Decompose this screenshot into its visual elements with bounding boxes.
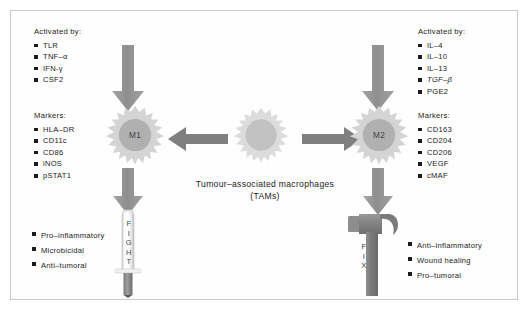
list-item: PGE2 (418, 86, 465, 98)
left-activated-by-title: Activated by: (34, 26, 81, 38)
list-item: TNF–α (34, 51, 81, 63)
list-item: Anti–tumoral (32, 258, 105, 273)
figure-canvas: Activated by: TLR TNF–α IFN-γ CSF2 Activ… (0, 0, 530, 312)
list-item: CD11c (34, 135, 74, 147)
macrophage-icon (104, 104, 166, 166)
right-markers-block: Markers: CD163 CD204 CD206 VEGF cMAF (418, 110, 452, 182)
right-markers-list: CD163 CD204 CD206 VEGF cMAF (418, 124, 452, 182)
list-item: CD206 (418, 147, 452, 159)
left-markers-title: Markers: (34, 110, 74, 122)
list-item: Pro–inflammatory (32, 228, 105, 243)
tam-caption-line2: (TAMs) (175, 190, 355, 202)
list-item: TGF–β (418, 74, 465, 86)
syringe-icon (112, 208, 146, 298)
list-item: CD163 (418, 124, 452, 136)
m1-macrophage-cell: M1 (104, 104, 166, 166)
list-item: Pro–tumoral (408, 268, 482, 283)
tam-caption: Tumour–associated macrophages (TAMs) (175, 178, 355, 202)
right-activated-by-title: Activated by: (418, 26, 465, 38)
list-item: pSTAT1 (34, 170, 74, 182)
arrow-down-right-activation (358, 45, 398, 113)
list-item: CD86 (34, 147, 74, 159)
left-outcomes-block: Pro–inflammatory Microbicidal Anti–tumor… (32, 228, 105, 273)
right-markers-title: Markers: (418, 110, 452, 122)
list-item: iNOS (34, 158, 74, 170)
list-item: cMAF (418, 170, 452, 182)
macrophage-icon (348, 104, 410, 166)
right-outcomes-block: Anti–inflammatory Wound healing Pro–tumo… (408, 238, 482, 283)
m2-macrophage-cell: M2 (348, 104, 410, 166)
hammer-icon (346, 210, 404, 298)
list-item: Microbicidal (32, 243, 105, 258)
arrow-left-to-m1 (166, 126, 228, 152)
left-markers-block: Markers: HLA–DR CD11c CD86 iNOS pSTAT1 (34, 110, 74, 182)
left-activated-by-block: Activated by: TLR TNF–α IFN-γ CSF2 (34, 26, 81, 86)
macrophage-icon (232, 106, 290, 164)
list-item: HLA–DR (34, 124, 74, 136)
list-item: Wound healing (408, 253, 482, 268)
list-item: VEGF (418, 158, 452, 170)
list-item: CD204 (418, 135, 452, 147)
tam-caption-line1: Tumour–associated macrophages (175, 178, 355, 190)
right-activated-by-block: Activated by: IL–4 IL–10 IL–13 TGF–β PGE… (418, 26, 465, 98)
tam-macrophage-cell (232, 106, 290, 164)
list-item: CSF2 (34, 74, 81, 86)
list-item: IL–4 (418, 40, 465, 52)
left-activated-by-list: TLR TNF–α IFN-γ CSF2 (34, 40, 81, 86)
left-outcomes-list: Pro–inflammatory Microbicidal Anti–tumor… (32, 228, 105, 273)
arrow-down-right-outcome (360, 168, 396, 216)
list-item: IL–13 (418, 63, 465, 75)
list-item: IL–10 (418, 51, 465, 63)
arrow-down-left-activation (108, 45, 148, 113)
right-activated-by-list: IL–4 IL–10 IL–13 TGF–β PGE2 (418, 40, 465, 98)
list-item: Anti–inflammatory (408, 238, 482, 253)
list-item: TLR (34, 40, 81, 52)
left-markers-list: HLA–DR CD11c CD86 iNOS pSTAT1 (34, 124, 74, 182)
list-item: IFN-γ (34, 63, 81, 75)
right-outcomes-list: Anti–inflammatory Wound healing Pro–tumo… (408, 238, 482, 283)
